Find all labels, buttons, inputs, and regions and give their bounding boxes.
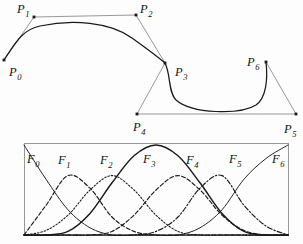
basis-curve-F2 — [24, 176, 288, 236]
basis-label-F0-subscript: 0 — [35, 159, 40, 169]
control-point-label-6-text: P6 — [246, 55, 260, 72]
basis-label-F4-subscript: 4 — [194, 160, 199, 170]
basis-label-F3-subscript: 3 — [150, 159, 155, 169]
bezier-basis-figure: P0P1P2P3P4P5P6F0F1F2F3F4F5F6 — [0, 0, 303, 244]
control-point-3[interactable] — [164, 62, 167, 65]
basis-label-F3: F3 — [142, 152, 155, 169]
basis-label-F4-text: F4 — [185, 153, 199, 170]
basis-label-F5: F5 — [228, 152, 241, 169]
basis-label-F6-text: F6 — [271, 152, 285, 169]
control-point-0[interactable] — [3, 59, 6, 62]
basis-label-F2: F2 — [99, 153, 113, 170]
control-point-label-5: P5 — [283, 122, 296, 139]
control-point-label-0-text: P0 — [8, 65, 22, 82]
basis-label-F0: F0 — [26, 152, 40, 169]
control-point-label-5-text: P5 — [283, 122, 296, 139]
control-point-label-0: P0 — [8, 65, 22, 82]
control-point-label-0-subscript: 0 — [17, 72, 22, 82]
control-point-label-1-subscript: 1 — [25, 9, 29, 19]
basis-curve-F4 — [24, 176, 288, 236]
basis-label-F5-text: F5 — [228, 152, 241, 169]
basis-label-F6-subscript: 6 — [280, 159, 285, 169]
basis-label-F1: F1 — [57, 153, 70, 170]
basis-label-F0-text: F0 — [26, 152, 40, 169]
control-point-label-2-subscript: 2 — [148, 9, 153, 19]
control-point-label-2: P2 — [139, 2, 153, 19]
control-point-label-1-text: P1 — [16, 2, 29, 19]
control-point-label-4-subscript: 4 — [141, 127, 146, 137]
basis-label-F3-text: F3 — [142, 152, 155, 169]
control-point-label-5-subscript: 5 — [292, 129, 296, 139]
spline-curve-upper — [4, 22, 165, 63]
control-point-1[interactable] — [33, 16, 36, 19]
basis-label-F5-subscript: 5 — [237, 159, 241, 169]
control-point-6[interactable] — [265, 61, 268, 64]
basis-label-F4: F4 — [185, 153, 199, 170]
control-point-label-3: P3 — [174, 65, 187, 82]
control-point-label-4-text: P4 — [132, 120, 146, 137]
control-point-label-3-text: P3 — [174, 65, 187, 82]
control-point-label-6: P6 — [246, 55, 260, 72]
basis-label-F1-text: F1 — [57, 153, 70, 170]
control-point-label-6-subscript: 6 — [255, 62, 260, 72]
basis-label-F2-text: F2 — [99, 153, 113, 170]
control-point-label-4: P4 — [132, 120, 146, 137]
control-point-label-3-subscript: 3 — [182, 72, 187, 82]
control-point-label-2-text: P2 — [139, 2, 153, 19]
control-point-2[interactable] — [135, 14, 138, 17]
basis-label-F1-subscript: 1 — [66, 160, 70, 170]
basis-label-F6: F6 — [271, 152, 285, 169]
control-point-4[interactable] — [136, 113, 139, 116]
basis-label-F2-subscript: 2 — [108, 160, 113, 170]
control-point-5[interactable] — [295, 113, 298, 116]
figure-canvas: P0P1P2P3P4P5P6F0F1F2F3F4F5F6 — [0, 0, 303, 244]
control-point-label-1: P1 — [16, 2, 29, 19]
